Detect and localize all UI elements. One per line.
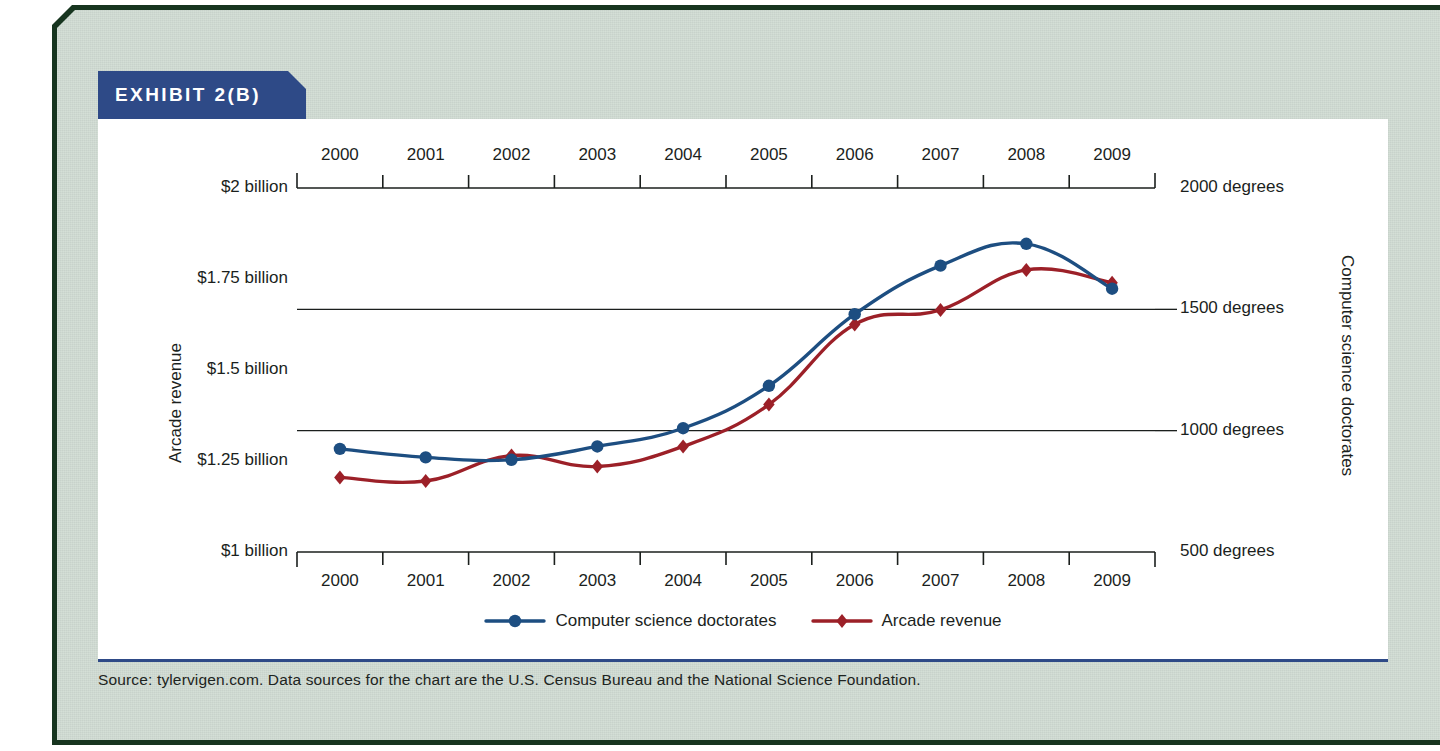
data-point-marker	[934, 259, 946, 271]
bottom-axis-tick-label: 2000	[297, 571, 383, 591]
bottom-axis-tick-label: 2009	[1069, 571, 1155, 591]
legend-swatch-circle-icon	[484, 612, 546, 630]
left-axis-tick-label: $1.5 billion	[98, 359, 288, 379]
top-axis-tick-label: 2003	[554, 145, 640, 165]
data-point-marker	[849, 308, 861, 320]
data-point-marker	[677, 422, 689, 434]
data-point-marker	[420, 451, 432, 463]
series-line-arcade-revenue	[340, 269, 1112, 483]
series-line-computer-science-doctorates	[340, 243, 1112, 461]
data-point-marker	[1020, 238, 1032, 250]
data-point-marker	[591, 440, 603, 452]
data-point-marker	[763, 380, 775, 392]
bottom-axis-tick-label: 2006	[812, 571, 898, 591]
left-axis-tick-label: $1.25 billion	[98, 450, 288, 470]
right-axis-tick-label: 2000 degrees	[1180, 177, 1284, 197]
bottom-axis-tick-label: 2001	[383, 571, 469, 591]
top-axis-tick-label: 2008	[983, 145, 1069, 165]
bottom-axis-tick-label: 2007	[898, 571, 984, 591]
bottom-axis-tick-label: 2005	[726, 571, 812, 591]
top-axis-tick-label: 2006	[812, 145, 898, 165]
legend-item: Computer science doctorates	[484, 611, 776, 631]
data-point-marker	[334, 443, 346, 455]
bottom-axis-tick-label: 2003	[554, 571, 640, 591]
exhibit-screenshot: EXHIBIT 2(B) Arcade revenue Computer sci…	[0, 0, 1440, 751]
right-axis-tick-label: 1500 degrees	[1180, 298, 1284, 318]
data-point-marker	[420, 474, 431, 488]
bottom-axis-tick-label: 2002	[469, 571, 555, 591]
data-point-marker	[592, 459, 603, 473]
panel-bottom-rule	[98, 659, 1388, 662]
bottom-axis-ticks	[297, 552, 1155, 567]
data-point-marker	[677, 439, 688, 453]
chart-panel: Arcade revenue Computer science doctorat…	[98, 119, 1388, 659]
top-axis-ticks	[297, 173, 1155, 188]
left-axis-tick-label: $1 billion	[98, 541, 288, 561]
bottom-axis-tick-label: 2004	[640, 571, 726, 591]
top-axis-tick-label: 2005	[726, 145, 812, 165]
right-axis-tick-label: 1000 degrees	[1180, 420, 1284, 440]
chart-legend: Computer science doctoratesArcade revenu…	[98, 611, 1388, 631]
data-point-marker	[505, 454, 517, 466]
top-axis-tick-label: 2004	[640, 145, 726, 165]
legend-label: Computer science doctorates	[555, 611, 776, 631]
source-note: Source: tylervigen.com. Data sources for…	[98, 671, 1338, 689]
series-markers-arcade-revenue	[334, 263, 1118, 488]
top-axis-tick-label: 2002	[469, 145, 555, 165]
top-axis-tick-label: 2009	[1069, 145, 1155, 165]
left-axis-tick-label: $1.75 billion	[98, 268, 288, 288]
bottom-axis-tick-label: 2008	[983, 571, 1069, 591]
data-point-marker	[1021, 263, 1032, 277]
top-axis-tick-label: 2000	[297, 145, 383, 165]
legend-swatch-diamond-icon	[811, 612, 873, 630]
exhibit-banner: EXHIBIT 2(B)	[98, 71, 306, 119]
legend-label: Arcade revenue	[882, 611, 1002, 631]
left-axis-tick-label: $2 billion	[98, 177, 288, 197]
gridlines	[297, 309, 1177, 430]
exhibit-banner-label: EXHIBIT 2(B)	[98, 84, 261, 106]
top-axis-tick-label: 2007	[898, 145, 984, 165]
data-point-marker	[935, 303, 946, 317]
top-axis-tick-label: 2001	[383, 145, 469, 165]
data-point-marker	[334, 470, 345, 484]
data-point-marker	[1106, 283, 1118, 295]
legend-item: Arcade revenue	[811, 611, 1002, 631]
right-axis-tick-label: 500 degrees	[1180, 541, 1275, 561]
